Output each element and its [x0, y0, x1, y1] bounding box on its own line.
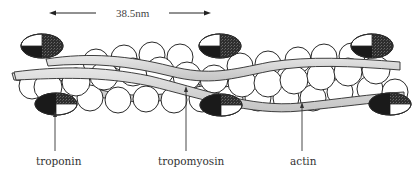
actin-monomer [105, 87, 131, 113]
scale-arrowhead-left [49, 11, 56, 16]
scale-bar-label: 38.5nm [116, 7, 150, 19]
troponin-bottom-1 [35, 93, 77, 115]
troponin-top-1 [21, 34, 63, 58]
troponin-label: troponin [36, 155, 82, 167]
scale-arrowhead-right [204, 11, 211, 16]
thin-filament-diagram: 38.5nm troponin tropomyosin actin [0, 0, 415, 175]
troponin-shaded-half [42, 34, 63, 58]
troponin-bottom-3 [369, 93, 411, 115]
troponin-top-2 [199, 34, 241, 58]
actin-label: actin [290, 155, 317, 167]
troponin-top-3 [351, 34, 393, 58]
troponin-shaded-half [372, 34, 393, 58]
actin-monomer [133, 86, 159, 112]
tropomyosin-label: tropomyosin [158, 155, 225, 167]
actin-monomer [280, 66, 308, 94]
troponin-bottom-2 [200, 94, 242, 116]
scale-bar: 38.5nm [49, 7, 211, 19]
